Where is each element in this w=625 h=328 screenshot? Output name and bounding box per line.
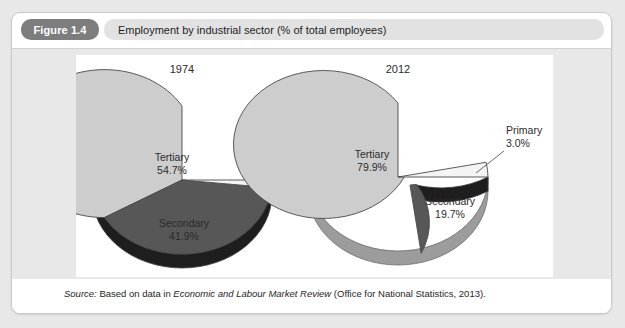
pie-2012-secondary-name: Secondary bbox=[425, 195, 476, 207]
pie-1974-tertiary-name: Tertiary bbox=[155, 151, 190, 163]
source-middle: Based on data in bbox=[97, 288, 174, 299]
pie-1974-tertiary-value: 54.7% bbox=[157, 164, 187, 176]
figure-header: Figure 1.4 Employment by industrial sect… bbox=[12, 13, 612, 49]
pie-2012-tertiary-value: 79.9% bbox=[357, 161, 387, 173]
pie-charts-svg: 1974 Tertiary 54.7% Secondary 41.9% bbox=[76, 55, 553, 277]
pie-2012-secondary-value: 19.7% bbox=[435, 208, 465, 220]
pie-1974-secondary-name: Secondary bbox=[159, 217, 210, 229]
pie-chart-2012: 2012 Tertiary 79.9% Secondary 19.7% bbox=[233, 63, 542, 265]
figure-number-badge: Figure 1.4 bbox=[21, 19, 99, 40]
source-prefix: Source: bbox=[64, 288, 97, 299]
source-publication: Economic and Labour Market Review bbox=[173, 288, 331, 299]
source-citation: Source: Based on data in Economic and La… bbox=[64, 288, 486, 299]
pie-2012-slice-primary bbox=[398, 162, 488, 177]
pie-2012-primary-value: 3.0% bbox=[506, 137, 530, 149]
plot-area: 1974 Tertiary 54.7% Secondary 41.9% bbox=[76, 55, 553, 277]
source-note: Source: Based on data in Economic and La… bbox=[12, 279, 612, 314]
pie-2012-slice-tertiary bbox=[233, 71, 404, 219]
chart-panel: 1974 Tertiary 54.7% Secondary 41.9% bbox=[12, 49, 612, 279]
pie-2012-primary-name: Primary bbox=[506, 124, 543, 136]
pie-1974-year-label: 1974 bbox=[170, 63, 194, 75]
pie-2012-year-label: 2012 bbox=[386, 63, 410, 75]
figure-title: Employment by industrial sector (% of to… bbox=[104, 24, 386, 36]
pie-2012-tertiary-name: Tertiary bbox=[355, 148, 390, 160]
pie-2012-primary-leader-line bbox=[476, 151, 504, 173]
source-suffix: (Office for National Statistics, 2013). bbox=[331, 288, 486, 299]
figure-title-bar: Employment by industrial sector (% of to… bbox=[104, 19, 604, 40]
pie-1974-secondary-value: 41.9% bbox=[169, 230, 199, 242]
figure-card: Figure 1.4 Employment by industrial sect… bbox=[11, 12, 612, 314]
